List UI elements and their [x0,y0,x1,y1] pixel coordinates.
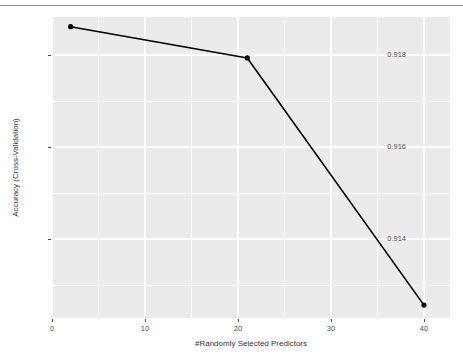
chart-figure: 0.9140.9160.918 010203040 #Randomly Sele… [0,0,463,363]
y-axis-tick-mark [48,147,51,148]
x-axis-tick-label: 20 [234,325,242,333]
x-axis-tick-mark [424,319,425,322]
y-axis-tick-mark [48,55,51,56]
x-axis-title: #Randomly Selected Predictors [52,339,450,348]
x-axis-tick-label: 30 [327,325,335,333]
y-axis-tick-label: 0.918 [387,51,406,59]
x-axis-tick-mark [331,319,332,322]
plot-panel [52,17,450,318]
x-axis-tick-label: 40 [420,325,428,333]
y-axis-tick-label: 0.916 [387,143,406,151]
top-divider-rule [0,5,463,6]
x-axis-tick-mark [145,319,146,322]
data-point [421,303,426,308]
x-axis-tick-mark [238,319,239,322]
y-axis-tick-mark [48,239,51,240]
data-point [245,55,250,60]
y-axis-title: Accuracy (Cross-Validation) [9,17,23,318]
series-line-accuracy [71,27,424,305]
x-axis-tick-mark [52,319,53,322]
series-point-group [68,24,427,308]
y-axis-tick-label: 0.914 [387,235,406,243]
series-layer [52,17,450,318]
x-axis-tick-label: 0 [50,325,54,333]
x-axis-tick-label: 10 [141,325,149,333]
data-point [68,24,73,29]
